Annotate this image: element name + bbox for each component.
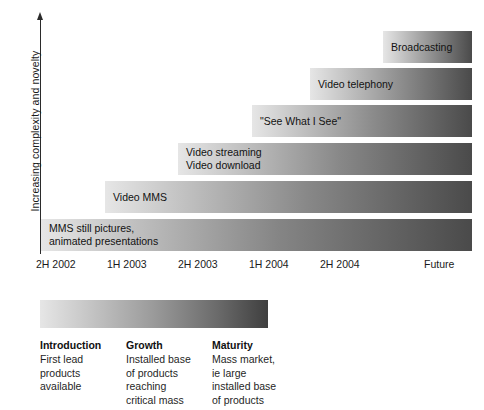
legend-item-growth: Growth Installed base of products reachi…	[126, 338, 204, 407]
legend-item-maturity: Maturity Mass market, ie large installed…	[212, 338, 290, 407]
chart-plot-area: Increasing complexity and novelty Broadc…	[0, 0, 484, 280]
legend-gradient-swatch	[40, 300, 268, 328]
bar-label: Video MMS	[113, 191, 167, 204]
legend-item-description: Installed base of products reaching crit…	[126, 353, 204, 407]
bar-video-streaming-download: Video streaming Video download	[178, 143, 472, 175]
legend-item-title: Growth	[126, 338, 204, 352]
bar-video-mms: Video MMS	[105, 181, 472, 213]
x-tick-label: 2H 2002	[36, 258, 76, 270]
x-tick-label: 2H 2004	[320, 258, 360, 270]
legend-item-title: Maturity	[212, 338, 290, 352]
legend-item-description: First lead products available	[40, 353, 118, 394]
bar-broadcasting: Broadcasting	[383, 31, 472, 63]
bar-video-telephony: Video telephony	[310, 68, 472, 100]
lifecycle-legend: Introduction First lead products availab…	[0, 292, 484, 410]
x-tick-label: Future	[424, 258, 454, 270]
bar-label: Video streaming Video download	[186, 146, 262, 172]
legend-item-introduction: Introduction First lead products availab…	[40, 338, 118, 407]
bar-label: "See What I See"	[260, 115, 341, 128]
bar-label: Broadcasting	[391, 41, 452, 54]
bar-mms-still-pictures: MMS still pictures, animated presentatio…	[41, 219, 472, 251]
x-axis-tick-labels: 2H 2002 1H 2003 2H 2003 1H 2004 2H 2004 …	[0, 258, 484, 274]
bar-label: MMS still pictures, animated presentatio…	[49, 222, 158, 248]
legend-item-title: Introduction	[40, 338, 118, 352]
legend-columns: Introduction First lead products availab…	[40, 338, 340, 407]
legend-item-description: Mass market, ie large installed base of …	[212, 353, 290, 407]
bar-see-what-i-see: "See What I See"	[252, 105, 472, 137]
x-tick-label: 1H 2003	[107, 258, 147, 270]
y-axis-label: Increasing complexity and novelty	[29, 21, 41, 241]
x-tick-label: 1H 2004	[249, 258, 289, 270]
x-tick-label: 2H 2003	[178, 258, 218, 270]
bar-label: Video telephony	[318, 78, 393, 91]
